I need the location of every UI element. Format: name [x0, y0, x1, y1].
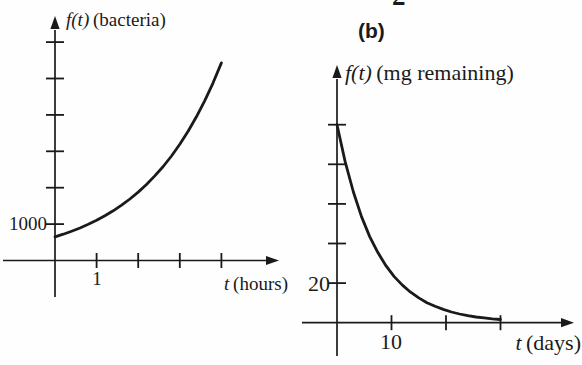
decay-curve [337, 125, 501, 320]
x-axis-arrow-icon [561, 318, 574, 327]
chart-b-xlabel-unit: (days) [526, 330, 581, 355]
y-axis-arrow-icon [332, 65, 341, 78]
chart-a-xlabel-var: t [224, 273, 229, 294]
y-axis-arrow-icon [50, 16, 59, 29]
chart-b-ylabel-unit: (mg remaining) [376, 60, 513, 85]
chart-a-xtick-label-1: 1 [88, 268, 106, 290]
chart-b-ylabel-var: f(t) [345, 60, 372, 85]
chart-b-xtick-label-10: 10 [377, 329, 405, 354]
chart-a-ytick-label-1000: 1000 [2, 213, 47, 235]
chart-b-ytick-label-20: 20 [297, 271, 330, 296]
chart-a-xlabel-unit: (hours) [233, 273, 288, 294]
chart-a-ylabel-var: f(t) [66, 9, 89, 30]
bacteria-growth-curve [55, 63, 221, 237]
chart-a-ylabel: f(t) (bacteria) [66, 9, 166, 31]
chart-b-ylabel: f(t) (mg remaining) [345, 60, 514, 85]
chart-a-ylabel-unit: (bacteria) [93, 9, 166, 30]
chart-b-xlabel-var: t [515, 330, 521, 355]
chart-a-xlabel: t (hours) [198, 273, 288, 295]
chart-b [302, 65, 574, 356]
chart-a [3, 16, 279, 297]
plots-svg [0, 0, 582, 365]
chart-b-xlabel: t (days) [510, 330, 581, 355]
figure: 2 (b) f(t) (bacteria) 1000 1 t (hours) f… [0, 0, 582, 365]
x-axis-arrow-icon [266, 256, 279, 265]
